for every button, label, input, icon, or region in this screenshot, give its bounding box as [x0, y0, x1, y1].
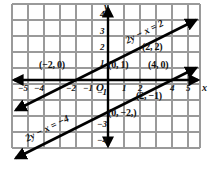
x-tick-minus-5: −5 — [18, 84, 28, 93]
point-label-2-neg1: (2, −1) — [136, 91, 162, 101]
x-axis-label: x — [202, 83, 207, 93]
y-tick-minus-4: −4 — [97, 136, 107, 145]
y-tick-1: 1 — [100, 59, 105, 68]
x-tick-4: 4 — [170, 84, 175, 93]
point-label-0-neg2: (0, −2,) — [108, 108, 136, 118]
x-tick-5: 5 — [186, 84, 191, 93]
point-label-0-1: (0, 1) — [108, 60, 128, 70]
point-label-4-0: (4, 0) — [148, 60, 168, 70]
x-tick-minus-2: −2 — [66, 84, 76, 93]
coordinate-graph-figure: −5 −4 −2 −1 1 2 4 5 4 3 2 1 −1 −3 −4 y x… — [0, 0, 219, 170]
y-tick-3: 3 — [100, 27, 105, 36]
y-tick-2: 2 — [100, 43, 105, 52]
x-tick-minus-4: −4 — [34, 84, 44, 93]
point-label-2-2: (2, 2) — [142, 42, 162, 52]
x-tick-1: 1 — [122, 84, 127, 93]
x-tick-minus-1: −1 — [83, 84, 93, 93]
y-axis-label: y — [104, 2, 108, 12]
origin-label: O — [96, 82, 104, 93]
point-label-neg2-0: (−2, 0) — [39, 60, 65, 70]
y-tick-minus-3: −3 — [97, 120, 107, 129]
